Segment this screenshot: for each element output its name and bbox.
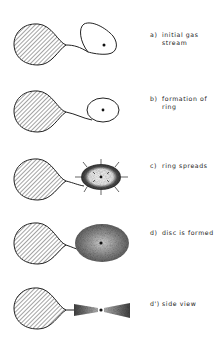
stage-tag: c) [150,162,162,170]
accretor-dot [99,308,102,311]
stage-c-illustration [14,159,128,200]
disc-side-right [104,303,130,318]
stage-b-illustration [14,91,119,132]
stage-label-line1: disc is formed [162,229,214,236]
stage-tag: b) [150,95,162,103]
stage-tag: a) [150,31,162,39]
stage-label-line1: formation of [162,95,207,102]
gas-loop [81,23,117,54]
stage-label-line1: initial gas [162,31,199,38]
accretor-dot [103,44,106,47]
stage-d-label: d)disc is formed [150,229,214,237]
stage-a-illustration [14,23,116,65]
stage-tag: d) [150,229,162,237]
accretor-dot [100,176,103,179]
diagram-canvas [0,0,214,341]
stage-c-label: c)ring spreads [150,162,208,170]
accretor-dot [102,109,105,112]
donor-star [14,223,66,264]
disc-side-left [74,304,98,316]
donor-star [14,24,66,65]
stage-a-label: a)initial gas stream [150,31,199,47]
donor-star [14,159,66,200]
stage-d-prime-illustration [14,288,130,329]
gas-stream [66,45,88,52]
donor-star [14,91,66,132]
stage-label-line1: ring spreads [162,162,208,169]
gas-stream [66,112,92,120]
donor-star [14,288,66,329]
stage-b-label: b)formation of ring [150,95,207,111]
stage-d-illustration [14,223,129,264]
gas-stream [66,181,84,186]
stage-d-prime-label: d')side view [150,300,196,308]
stage-label-line2: stream [150,39,199,47]
stage-label-line1: side view [162,300,196,307]
stage-tag: d') [150,300,162,308]
accretor-dot [99,241,102,244]
stage-label-line2: ring [150,103,207,111]
